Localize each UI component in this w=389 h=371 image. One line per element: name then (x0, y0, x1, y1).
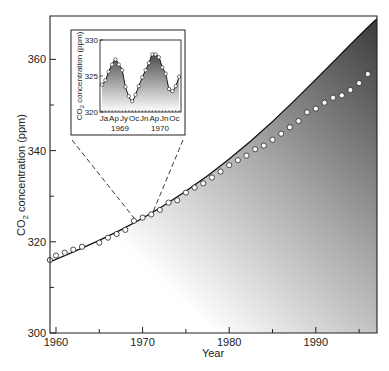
inset-data-point (131, 100, 134, 103)
inset-month-label: Ap (149, 114, 159, 123)
inset-data-point (177, 75, 180, 78)
data-point (261, 143, 266, 148)
inset-data-point (167, 87, 170, 90)
inset-month-label: Ap (109, 114, 119, 123)
inset-year-label: 1970 (151, 124, 169, 133)
inset-data-point (117, 63, 120, 66)
co2-chart: 1960197019801990 300320340360 Year CO2 c… (0, 0, 389, 371)
data-point (331, 95, 336, 100)
y-tick-label: 300 (28, 327, 46, 339)
data-point (218, 169, 223, 174)
data-point (313, 106, 318, 111)
inset-data-point (171, 89, 174, 92)
x-tick-label: 1970 (130, 336, 154, 348)
data-point (157, 207, 162, 212)
inset-data-point (104, 79, 107, 82)
y-tick-label: 340 (28, 145, 46, 157)
data-point (253, 147, 258, 152)
zoom-line-left (72, 140, 134, 218)
inset-data-point (157, 56, 160, 59)
data-point (123, 227, 128, 232)
inset-data-point (120, 69, 123, 72)
inset-data-point (110, 63, 113, 66)
inset-data-point (151, 53, 154, 56)
inset-data-point (124, 85, 127, 88)
y-axis-title: CO2 concentration (ppm) (15, 114, 30, 236)
inset-month-label: Jn (140, 114, 148, 123)
inset-y-tick-label: 330 (85, 36, 99, 45)
x-tick-label: 1960 (44, 336, 68, 348)
data-point (53, 253, 58, 258)
data-point (244, 153, 249, 158)
data-point (235, 158, 240, 163)
data-point (166, 200, 171, 205)
inset-data-point (114, 58, 117, 61)
x-tick-label: 1990 (304, 336, 328, 348)
y-tick-label: 320 (28, 236, 46, 248)
inset-month-label: Ja (100, 114, 109, 123)
inset-y-tick-label: 325 (85, 72, 99, 81)
inset-data-point (164, 72, 167, 75)
data-point (192, 185, 197, 190)
inset-data-point (107, 70, 110, 73)
data-point (71, 247, 76, 252)
data-point (140, 215, 145, 220)
data-point (287, 125, 292, 130)
x-axis-title: Year (202, 347, 225, 359)
inset-month-label: Oc (169, 114, 179, 123)
data-point (131, 218, 136, 223)
data-point (97, 240, 102, 245)
data-point (279, 131, 284, 136)
data-point (365, 71, 370, 76)
y-tick-label: 360 (28, 53, 46, 65)
inset-data-point (174, 84, 177, 87)
inset-data-point (154, 53, 157, 56)
data-point (209, 175, 214, 180)
data-point (357, 81, 362, 86)
inset-data-point (134, 93, 137, 96)
data-point (339, 93, 344, 98)
data-point (149, 212, 154, 217)
inset-data-point (100, 83, 103, 86)
data-point (79, 244, 84, 249)
inset-year-label: 1969 (111, 124, 129, 133)
inset-month-label: Jn (160, 114, 168, 123)
data-point (227, 163, 232, 168)
inset-data-point (161, 66, 164, 69)
inset-data-point (141, 76, 144, 79)
inset-y-tick-label: 320 (85, 108, 99, 117)
inset-data-point (127, 95, 130, 98)
data-point (270, 137, 275, 142)
inset-data-point (144, 69, 147, 72)
data-point (62, 250, 67, 255)
inset-month-label: Oc (129, 114, 139, 123)
data-point (105, 235, 110, 240)
data-point (305, 110, 310, 115)
inset-data-point (137, 84, 140, 87)
data-point (201, 181, 206, 186)
inset-month-label: Jy (120, 114, 128, 123)
data-point (175, 198, 180, 203)
data-point (296, 118, 301, 123)
data-point (348, 87, 353, 92)
data-point (322, 100, 327, 105)
data-point (183, 190, 188, 195)
inset-data-point (147, 61, 150, 64)
data-point (114, 231, 119, 236)
